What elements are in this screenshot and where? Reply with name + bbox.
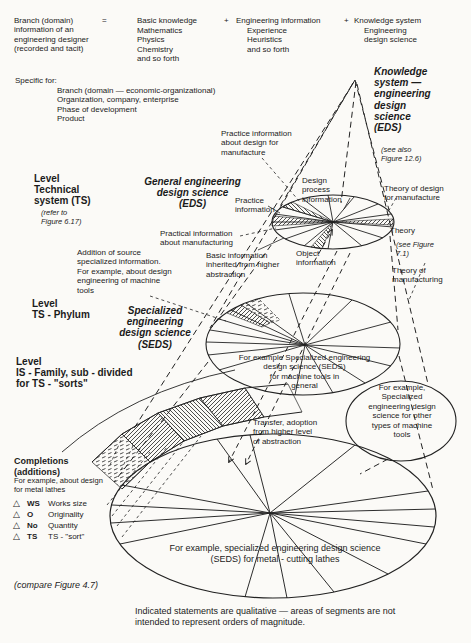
theory-label: Theory	[390, 226, 415, 235]
see-figure-71: (see Figure 7.1)	[396, 241, 434, 259]
design-process-information: Design process information	[302, 176, 342, 204]
addition-of-source: Addition of source specialized informati…	[77, 248, 172, 295]
legend-row-no: △ No Quantity	[13, 520, 78, 530]
legend-label: Quantity	[48, 521, 78, 530]
practical-info-manufacturing: Practical information about manufacturin…	[160, 229, 233, 248]
triangle-icon: △	[13, 498, 24, 508]
compare-figure-47: (compare Figure 4.7)	[14, 580, 98, 591]
formula-term3-items: Engineering design science	[364, 26, 417, 45]
basic-information-inherited: Basic information inherited from higher …	[206, 251, 279, 279]
figure-caption: Indicated statements are qualitative — a…	[135, 606, 465, 627]
legend-label: TS - "sort"	[48, 532, 84, 541]
formula-term1-head: Basic knowledge	[137, 16, 197, 25]
formula-lhs: Branch (domain) information of an engine…	[14, 16, 89, 54]
theory-of-design-for-manufacture: Theory of design for manufacture	[384, 184, 444, 203]
specific-for-items: Branch (domain — economic-organizational…	[57, 86, 215, 124]
completions-subtitle: For example, about design for metal lath…	[14, 477, 103, 495]
triangle-icon: △	[13, 531, 24, 541]
legend-label: Works size	[48, 499, 87, 508]
refer-figure-617: (refer to Figure 6.17)	[41, 209, 81, 227]
knowledge-system-label: Knowledge system — engineering design sc…	[374, 66, 431, 133]
specialized-seds-label: Specialized engineering design science (…	[100, 305, 210, 350]
completions-title: Completions (additions)	[14, 456, 69, 477]
legend-code: WS	[27, 499, 45, 508]
bottom-ellipse-seds-lathes	[110, 434, 436, 598]
legend-code: TS	[27, 532, 45, 541]
level-is-family-title: Level IS - Family, sub - divided for TS …	[16, 356, 133, 390]
legend-code: No	[27, 521, 45, 530]
legend-row-ts: △ TS TS - "sort"	[13, 531, 84, 541]
bubble-label: For example, Specialized engineering des…	[352, 383, 452, 440]
bottom-ellipse-label: For example, specialized engineering des…	[155, 543, 395, 564]
formula-term3-head: Knowledge system	[354, 16, 421, 25]
formula-term2-head: Engineering information	[236, 16, 321, 25]
legend-code: O	[27, 510, 45, 519]
equals-sign: =	[102, 16, 107, 25]
figure-page: Branch (domain) information of an engine…	[0, 0, 471, 643]
legend-row-o: △ O Originality	[13, 509, 84, 519]
transfer-adoption-label: Transfer, adoption from higher level of …	[253, 418, 317, 446]
specific-for-title: Specific for:	[15, 76, 57, 85]
see-also-figure-126: (see also Figure 12.6)	[381, 146, 421, 164]
formula-term2-items: Experience Heuristics and so forth	[247, 26, 289, 54]
triangle-icon: △	[13, 520, 24, 530]
plus-sign-1: +	[224, 16, 229, 25]
practice-information: Practice information	[235, 196, 275, 215]
plus-sign-2: +	[344, 16, 349, 25]
formula-term1-items: Mathematics Physics Chemistry and so for…	[137, 26, 182, 64]
legend-label: Originality	[48, 510, 84, 519]
theory-of-manufacturing: Theory of manufacturing	[392, 266, 443, 285]
triangle-icon: △	[13, 509, 24, 519]
level-ts-phylum-title: Level TS - Phylum	[32, 298, 90, 320]
level-ts-title: Level Technical system (TS)	[34, 173, 91, 207]
practice-info-design-manufacture: Practice information about design for ma…	[221, 129, 292, 157]
object-information: Object information	[296, 249, 336, 268]
legend-row-ws: △ WS Works size	[13, 498, 87, 508]
